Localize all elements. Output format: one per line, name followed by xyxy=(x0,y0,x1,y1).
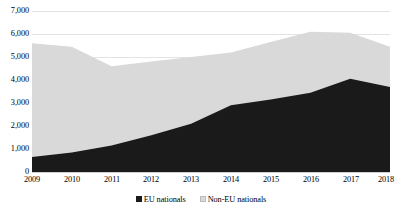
legend-label-non-eu-nationals: Non-EU nationals xyxy=(208,195,267,204)
y-tick-label: 6,000 xyxy=(0,29,29,38)
x-tick-label-2013: 2013 xyxy=(171,175,211,185)
x-tick-label-2016: 2016 xyxy=(291,175,331,185)
legend-item-non-eu-nationals[interactable]: Non-EU nationals xyxy=(200,195,267,204)
y-tick-label: 7,000 xyxy=(0,6,29,15)
x-tick-label-2010: 2010 xyxy=(52,175,92,185)
y-tick-label: 1,000 xyxy=(0,144,29,153)
x-tick-label-2018: 2018 xyxy=(366,175,402,185)
x-tick-label-2017: 2017 xyxy=(331,175,371,185)
legend-swatch-icon xyxy=(200,196,206,202)
x-tick-label-2009: 2009 xyxy=(12,175,52,185)
legend-item-eu-nationals[interactable]: EU nationals xyxy=(136,195,186,204)
x-tick-label-2015: 2015 xyxy=(251,175,291,185)
area-chart: 7,000 6,000 5,000 4,000 3,000 2,000 1,00… xyxy=(0,0,402,210)
y-tick-label: 3,000 xyxy=(0,98,29,107)
chart-legend: EU nationals Non-EU nationals xyxy=(0,192,402,206)
x-tick-label-2014: 2014 xyxy=(211,175,251,185)
x-axis: 2009 2010 2011 2012 2013 2014 2015 2016 … xyxy=(0,175,402,187)
y-tick-label: 5,000 xyxy=(0,52,29,61)
legend-swatch-icon xyxy=(136,196,142,202)
plot-area xyxy=(32,11,390,172)
x-axis-line xyxy=(32,172,390,173)
x-tick-label-2012: 2012 xyxy=(131,175,171,185)
x-tick-label-2011: 2011 xyxy=(92,175,132,185)
legend-label-eu-nationals: EU nationals xyxy=(144,195,186,204)
series-layer xyxy=(32,11,390,172)
y-tick-label: 2,000 xyxy=(0,121,29,130)
y-tick-label: 4,000 xyxy=(0,75,29,84)
